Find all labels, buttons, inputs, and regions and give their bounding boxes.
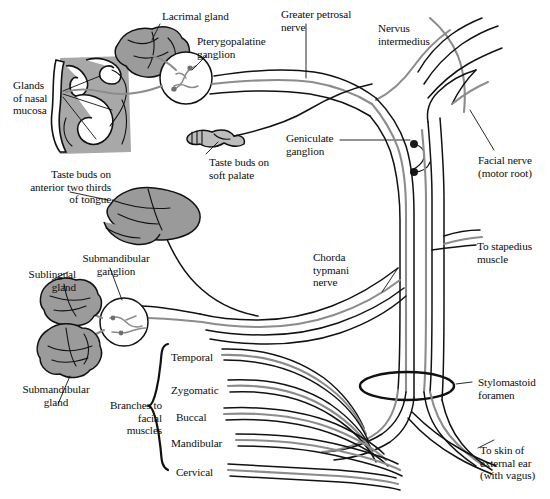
label-greater-petrosal-nerve: Greater petrosal nerve	[281, 8, 351, 33]
label-mandibular-branch: Mandibular	[171, 437, 222, 450]
label-submandibular-gland: Submandibular gland	[12, 383, 100, 408]
geniculate-ganglion-dots	[410, 140, 430, 176]
facial-nerve-diagram: .ink { fill:none; stroke:#111111; stroke…	[0, 0, 550, 499]
label-glands-of-nasal-mucosa: Glands of nasal mucosa	[13, 79, 47, 117]
facial-muscle-branches	[222, 349, 402, 490]
tongue-shape	[104, 188, 200, 245]
diagram-canvas: .ink { fill:none; stroke:#111111; stroke…	[0, 0, 550, 499]
submandibular-gland-shape	[37, 324, 101, 378]
label-zygomatic-branch: Zygomatic	[171, 384, 219, 397]
submandibular-ganglion-circle	[100, 298, 148, 346]
label-temporal-branch: Temporal	[171, 351, 213, 364]
label-facial-nerve-motor-root: Facial nerve (motor root)	[478, 154, 532, 179]
label-to-skin-external-ear: To skin of external ear (with vagus)	[480, 444, 535, 482]
label-branches-to-facial-muscles: Branches to facial muscles	[100, 399, 162, 437]
label-lacrimal-gland: Lacrimal gland	[162, 10, 229, 23]
greater-petrosal-lower	[210, 91, 370, 116]
stylomastoid-foramen-leader	[456, 382, 472, 384]
label-cervical-branch: Cervical	[176, 466, 213, 479]
label-submandibular-ganglion: Submandibular ganglion	[66, 252, 166, 277]
label-chorda-tympani-nerve: Chorda typmani nerve	[313, 251, 349, 289]
stapedius-branch	[432, 230, 482, 250]
label-pterygopalatine-ganglion: Pterygopalatine ganglion	[197, 35, 266, 60]
trunk-dark-4	[440, 118, 444, 400]
nasal-mucosa-shape	[51, 56, 131, 154]
label-taste-buds-soft-palate: Taste buds on soft palate	[209, 156, 269, 181]
trunk-para-2	[422, 130, 426, 392]
trunk-dark-2	[370, 116, 400, 390]
label-stylomastoid-foramen: Stylomastoid foramen	[478, 376, 536, 401]
label-to-stapedius-muscle: To stapedius muscle	[477, 240, 532, 265]
facial-nerve-motor-leader	[470, 110, 494, 150]
label-geniculate-ganglion: Geniculate ganglion	[286, 132, 333, 157]
chorda-tympani-nerve	[200, 268, 406, 344]
label-sublingual-gland: Sublingual gland	[10, 268, 76, 293]
label-nervus-intermedius: Nervus intermedius	[378, 22, 430, 47]
label-taste-buds-tongue: Taste buds on anterior two thirds of ton…	[6, 168, 111, 206]
label-buccal-branch: Buccal	[176, 411, 206, 424]
